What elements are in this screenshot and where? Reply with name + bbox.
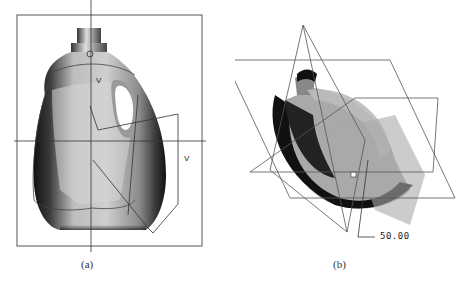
caption-a: (a) <box>81 258 93 270</box>
label-v-upper: V <box>96 76 101 85</box>
panel-a: V V (a) <box>0 0 235 288</box>
bottle-isometric-view <box>235 0 475 288</box>
label-v-right: V <box>184 154 189 163</box>
bottle-cap <box>77 28 101 44</box>
bottle-front-view <box>0 0 235 288</box>
caption-b: (b) <box>333 258 346 270</box>
panel-b: 50.00 (b) <box>235 0 475 288</box>
dimension-label: 50.00 <box>380 231 410 241</box>
